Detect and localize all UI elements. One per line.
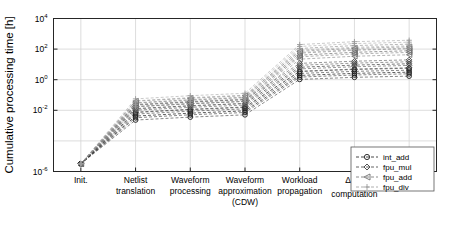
x-tick-label: Workloadpropagation: [277, 175, 322, 196]
y-tick-label: 104: [35, 13, 48, 24]
legend-label: fpu_add: [383, 173, 412, 182]
x-tick-label: Waveformapproximation(CDW): [218, 175, 272, 207]
legend-label: int_add: [383, 153, 409, 162]
y-tick-label: 10-2: [33, 104, 48, 115]
y-axis-title-text: Cumulative processing time [h]: [3, 16, 15, 173]
y-tick-label: 10-6: [33, 166, 48, 177]
y-tick-label: 100: [35, 74, 48, 85]
legend-label: fpu_mul: [383, 163, 412, 172]
chart-legend: int_addfpu_mulfpu_addfpu_div: [351, 147, 434, 192]
x-tick-label: Netlisttranslation: [116, 175, 155, 196]
x-tick-label: Waveformprocessing: [170, 175, 211, 196]
x-tick-label: Init.: [74, 175, 88, 185]
y-axis-title: Cumulative processing time [h]: [3, 16, 15, 173]
legend-label: fpu_div: [383, 183, 409, 192]
y-tick-label: 102: [35, 43, 48, 54]
cumulative-processing-time-chart: 10-610-2100102104 Init.Netlisttranslatio…: [0, 0, 461, 242]
chart-figure: 10-610-2100102104 Init.Netlisttranslatio…: [0, 0, 461, 242]
y-tick-labels: 10-610-2100102104: [33, 13, 48, 177]
